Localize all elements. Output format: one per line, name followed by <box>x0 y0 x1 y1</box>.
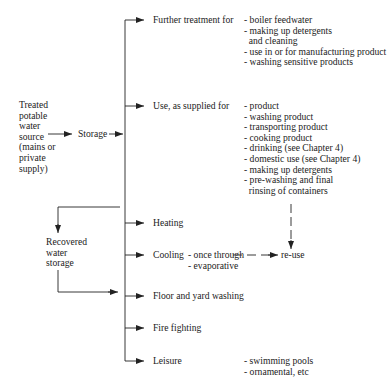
list-item: - washing sensitive products <box>244 57 386 68</box>
list-item: - evaporative <box>188 261 244 272</box>
leisure-list: - swimming pools - ornamental, etc <box>244 356 313 377</box>
list-item: - ornamental, etc <box>244 367 313 378</box>
branch-use-as-supplied: Use, as supplied for <box>153 101 229 112</box>
list-item: - product <box>244 101 360 112</box>
list-item: rinsing of containers <box>244 186 360 197</box>
cooling-list: - once through - evaporative <box>188 250 244 271</box>
branch-fire-fighting: Fire fighting <box>153 323 201 334</box>
source-line: private <box>19 153 56 164</box>
recovered-line: storage <box>46 258 87 269</box>
storage-node: Storage <box>78 129 107 140</box>
list-item: - boiler feedwater <box>244 15 386 26</box>
recovered-line: Recovered <box>46 237 87 248</box>
reuse-node: re-use <box>281 250 304 261</box>
source-node: Treated potable water source (mains or p… <box>19 100 56 174</box>
further-treatment-list: - boiler feedwater - making up detergent… <box>244 15 386 68</box>
branch-cooling: Cooling <box>153 250 184 261</box>
list-item: - domestic use (see Chapter 4) <box>244 154 360 165</box>
branch-floor-yard-washing: Floor and yard washing <box>153 291 244 302</box>
branch-leisure: Leisure <box>153 356 182 367</box>
source-line: Treated <box>19 100 56 111</box>
branch-further-treatment: Further treatment for <box>153 15 233 26</box>
list-item: - swimming pools <box>244 356 313 367</box>
use-as-supplied-list: - product - washing product - transporti… <box>244 101 360 196</box>
recovered-water-storage-node: Recovered water storage <box>46 237 87 269</box>
branch-heating: Heating <box>153 218 183 229</box>
list-item: - once through <box>188 250 244 261</box>
source-line: supply) <box>19 164 56 175</box>
